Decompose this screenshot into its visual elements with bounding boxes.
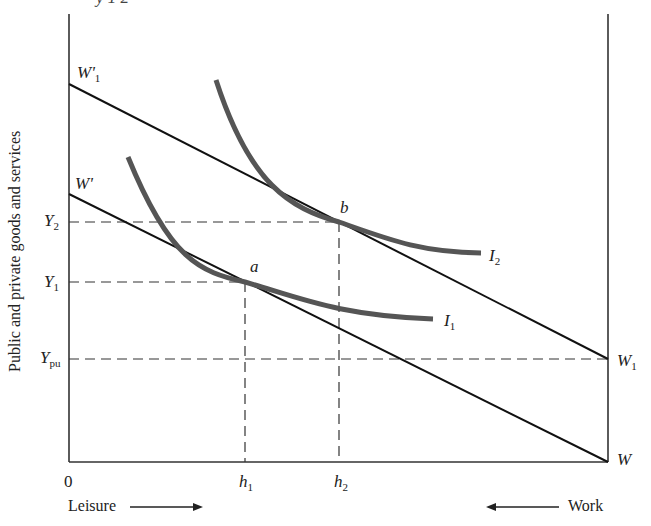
leisure-label: Leisure	[68, 498, 116, 514]
curve-label-i1: I1	[444, 312, 455, 332]
tick-h2: h2	[334, 473, 348, 493]
label-w1-prime: W'1	[77, 64, 100, 84]
curve-label-i2: I2	[489, 247, 500, 267]
tick-y1: Y1	[44, 273, 59, 293]
tick-h1: h1	[239, 473, 253, 493]
tick-origin: 0	[64, 473, 73, 490]
tick-ypu: Ypu	[40, 349, 60, 369]
tick-y2: Y2	[44, 212, 59, 232]
point-a-label: a	[250, 258, 259, 275]
point-b-label: b	[340, 199, 349, 216]
y-axis-label: Public and private goods and services	[6, 131, 24, 372]
work-label: Work	[568, 498, 603, 514]
label-w: W	[617, 451, 631, 468]
cropped-title-fragment: y 1 2	[96, 0, 129, 8]
indifference-curve-i2	[216, 80, 481, 253]
leisure-arrow-head	[193, 503, 203, 511]
label-w-prime: W'	[75, 175, 93, 192]
label-w1: W1	[617, 352, 637, 372]
work-arrow-head	[486, 503, 496, 511]
